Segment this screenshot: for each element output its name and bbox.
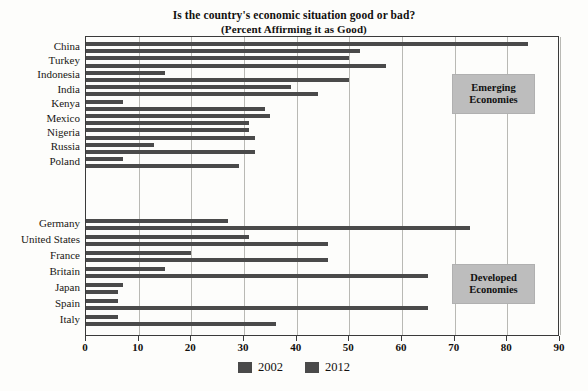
- group-tag-emerging-line2: Economies: [469, 94, 517, 107]
- group-tag-developed: Developed Economies: [452, 264, 535, 304]
- legend-item-2002[interactable]: 2002: [238, 360, 283, 375]
- legend-label-2002: 2002: [258, 360, 283, 375]
- category-label-mexico: Mexico: [0, 112, 80, 124]
- axis-tick-label: 70: [439, 341, 469, 353]
- category-label-germany: Germany: [0, 217, 80, 229]
- category-label-poland: Poland: [0, 155, 80, 167]
- axis-tick-label: 60: [386, 341, 416, 353]
- category-label-united-states: United States: [0, 233, 80, 245]
- legend-swatch-2012: [305, 362, 319, 373]
- axis-tick-label: 50: [333, 341, 363, 353]
- axis-tick-label: 20: [175, 341, 205, 353]
- category-label-china: China: [0, 40, 80, 52]
- legend-item-2012[interactable]: 2012: [305, 360, 350, 375]
- chart-legend: 20022012: [0, 360, 588, 375]
- category-label-spain: Spain: [0, 297, 80, 309]
- category-label-nigeria: Nigeria: [0, 126, 80, 138]
- legend-label-2012: 2012: [325, 360, 350, 375]
- axis-tick-label: 90: [544, 341, 574, 353]
- chart-container: Is the country's economic situation good…: [0, 0, 588, 391]
- group-tag-emerging: Emerging Economies: [452, 74, 535, 114]
- axis-tick-label: 80: [491, 341, 521, 353]
- axis-tick-label: 0: [70, 341, 100, 353]
- category-label-italy: Italy: [0, 313, 80, 325]
- category-label-turkey: Turkey: [0, 54, 80, 66]
- category-label-kenya: Kenya: [0, 97, 80, 109]
- category-label-india: India: [0, 83, 80, 95]
- axis-tick-label: 30: [228, 341, 258, 353]
- category-label-japan: Japan: [0, 281, 80, 293]
- group-tag-developed-line1: Developed: [470, 272, 517, 285]
- category-label-indonesia: Indonesia: [0, 68, 80, 80]
- legend-swatch-2002: [238, 362, 252, 373]
- group-tag-developed-line2: Economies: [469, 284, 517, 297]
- category-label-russia: Russia: [0, 140, 80, 152]
- category-labels: ChinaTurkeyIndonesiaIndiaKenyaMexicoNige…: [0, 0, 588, 391]
- category-label-france: France: [0, 249, 80, 261]
- category-label-britain: Britain: [0, 265, 80, 277]
- group-tag-emerging-line1: Emerging: [471, 82, 515, 95]
- axis-tick-label: 10: [123, 341, 153, 353]
- axis-tick-label: 40: [281, 341, 311, 353]
